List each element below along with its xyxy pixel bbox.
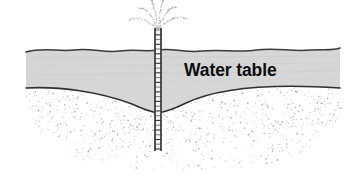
diagram-canvas — [0, 0, 354, 178]
well-casing — [155, 28, 162, 151]
water-spray-jets — [128, 0, 188, 29]
groundwater-cross-section-diagram: Water table — [0, 0, 354, 178]
water-table-label: Water table — [184, 60, 277, 80]
